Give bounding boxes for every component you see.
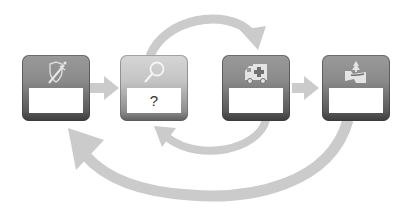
step-4-box[interactable] [322, 55, 390, 121]
ambulance-icon [242, 59, 270, 87]
step-1-label [29, 88, 83, 113]
magnifier-icon [140, 59, 168, 87]
arrow-step3-to-step2 [154, 120, 266, 151]
arrow-step3-to-step4 [292, 76, 319, 100]
step-2-box[interactable]: ? [120, 55, 188, 121]
step-4-label [329, 88, 383, 113]
arrow-step1-to-step2 [90, 76, 119, 100]
step-2-label: ? [127, 88, 181, 113]
arrow-step4-to-step1 [68, 120, 348, 196]
step-1-box[interactable] [22, 55, 90, 121]
step-3-box[interactable] [222, 55, 290, 121]
step-3-label [229, 88, 283, 113]
road-recovery-icon [342, 59, 370, 87]
shield-sword-icon [42, 59, 70, 87]
arrow-step2-to-step3 [150, 19, 266, 56]
